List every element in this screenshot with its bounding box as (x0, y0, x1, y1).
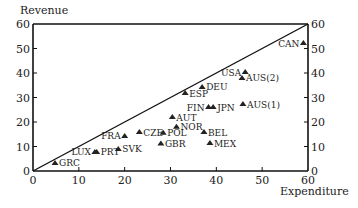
point-label: FRA (101, 131, 121, 141)
point-label: DEU (206, 82, 228, 92)
y-axis-title: Revenue (20, 4, 68, 17)
point-label: AUS(1) (246, 100, 280, 110)
y-tick-label-right: 40 (311, 67, 325, 80)
x-tick-label: 0 (30, 174, 37, 187)
y-tick-label-left: 40 (16, 67, 30, 80)
scatter-chart: Revenue Expenditure 01020304050600102030… (0, 0, 358, 208)
data-point-triangle-icon (136, 129, 143, 134)
y-tick-label-right: 50 (311, 43, 325, 56)
data-point-triangle-icon (239, 101, 246, 106)
point-label: SVK (122, 144, 142, 154)
data-point-triangle-icon (169, 114, 176, 119)
point-label: USA (221, 68, 242, 78)
point-label: GBR (165, 139, 186, 149)
point-label: CZE (143, 128, 163, 138)
data-point-triangle-icon (157, 141, 164, 146)
x-tick-label: 40 (209, 174, 223, 187)
point-label: GRC (59, 158, 80, 168)
y-tick-label-left: 50 (16, 43, 30, 56)
y-tick-label-right: 0 (311, 165, 318, 178)
y-tick-label-left: 30 (16, 92, 30, 105)
point-label: NOR (180, 122, 202, 132)
point-label: AUT (175, 113, 196, 123)
x-tick-label: 30 (164, 174, 178, 187)
plot-area: 010203040506001020304050600102030405060G… (16, 18, 325, 187)
x-tick-label: 10 (72, 174, 86, 187)
data-point-triangle-icon (173, 124, 180, 129)
y-tick-label-right: 30 (311, 92, 325, 105)
data-point-triangle-icon (121, 133, 128, 138)
y-tick-label-right: 20 (311, 116, 325, 129)
point-label: CAN (278, 39, 299, 49)
x-tick-label: 50 (255, 174, 269, 187)
point-label: AUS(2) (245, 73, 279, 83)
y-tick-label-left: 60 (16, 18, 30, 31)
y-tick-label-left: 0 (23, 165, 30, 178)
point-label: JPN (216, 103, 235, 113)
data-point-triangle-icon (199, 84, 206, 89)
point-label: BEL (208, 128, 227, 138)
data-point-triangle-icon (206, 140, 213, 145)
data-point-triangle-icon (300, 40, 307, 45)
x-tick-label: 20 (118, 174, 132, 187)
y-tick-label-left: 10 (16, 141, 30, 154)
y-tick-label-left: 20 (16, 116, 30, 129)
y-tick-label-right: 60 (311, 18, 325, 31)
point-label: FIN (187, 103, 205, 113)
y-tick-label-right: 10 (311, 141, 325, 154)
point-label: LUX (71, 147, 91, 157)
point-label: MEX (214, 139, 237, 149)
data-point-triangle-icon (210, 104, 217, 109)
